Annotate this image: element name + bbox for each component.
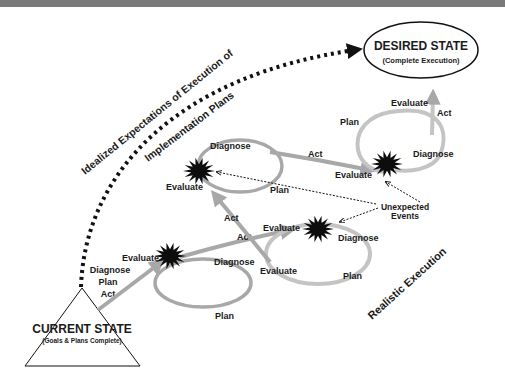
unexpected-events-line2: Events [391, 211, 419, 221]
realistic-execution-label: Realistic Execution [365, 245, 448, 322]
loop-4-burst-icon [371, 151, 403, 178]
unexpected-events: Unexpected Events [217, 172, 429, 222]
desired-state: DESIRED STATE (Complete Execution) [364, 22, 478, 78]
path-loop1-to-loop2 [180, 230, 290, 257]
execution-diagram: DESIRED STATE (Complete Execution) CURRE… [0, 0, 505, 385]
loop-3: Diagnose Evaluate Plan [166, 140, 289, 195]
loop-2-diagnose: Diagnose [338, 233, 379, 243]
desired-state-title: DESIRED STATE [374, 39, 468, 53]
desired-state-subtitle: (Complete Execution) [382, 56, 460, 65]
loop-1-plan: Plan [215, 311, 234, 321]
loop-2-evaluate-bottom: Evaluate [260, 266, 297, 276]
current-step-diagnose: Diagnose [90, 265, 131, 275]
idealized-path [81, 50, 355, 287]
loop-3-plan: Plan [270, 185, 289, 195]
loop-2-act: Act [224, 213, 239, 223]
loop-2-evaluate-top: Evaluate [263, 223, 300, 233]
current-step-plan: Plan [98, 277, 117, 287]
loop-4-plan: Plan [340, 117, 359, 127]
path-loop2-to-loop3 [215, 195, 270, 262]
path-loop4-to-desired [432, 95, 433, 135]
loop-3-act: Act [308, 149, 323, 159]
loop-2-burst-icon [302, 216, 334, 243]
current-state-subtitle: (Goals & Plans Complete) [42, 337, 121, 345]
pointer-to-loop2-star [340, 208, 378, 222]
loop-1-evaluate: Evaluate [122, 253, 159, 263]
loop-4-evaluate-top: Evaluate [391, 98, 428, 108]
loop-4-act: Act [437, 108, 452, 118]
loop-4-evaluate: Evaluate [335, 170, 372, 180]
pointer-to-loop4-star [386, 182, 420, 202]
loop-1: Evaluate Diagnose Plan [122, 253, 255, 321]
loop-4-diagnose: Diagnose [413, 149, 454, 159]
loop-3-evaluate: Evaluate [166, 182, 203, 192]
idealized-label-line2: Implementation Plans [142, 89, 236, 164]
loop-1-diagnose: Diagnose [214, 257, 255, 267]
loop-3-diagnose: Diagnose [210, 141, 251, 151]
current-state: CURRENT STATE (Goals & Plans Complete) D… [25, 265, 140, 366]
loop-2-plan: Plan [343, 271, 362, 281]
current-state-title: CURRENT STATE [32, 322, 132, 336]
